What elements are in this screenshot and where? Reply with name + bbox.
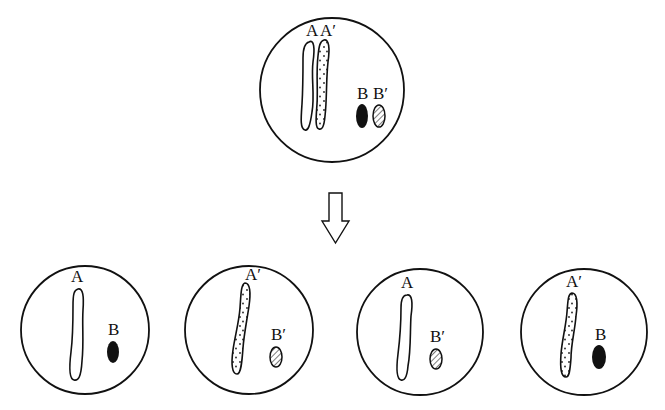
label-short: B: [595, 325, 606, 344]
chromosome-long: [232, 283, 250, 374]
cell-membrane: [521, 269, 647, 395]
label-short: B′: [430, 327, 445, 346]
label-short: B: [108, 320, 119, 339]
daughter-cell-2: A′ B′: [185, 265, 313, 394]
chromosome-b: [356, 104, 368, 128]
down-arrow-icon: [322, 193, 349, 243]
label-b-prime: B′: [373, 84, 388, 103]
label-long: A: [71, 267, 84, 286]
meiosis-diagram: A A′ B B′ A B A′ B′ A B′ A′: [0, 0, 665, 410]
chromosome-b-prime: [373, 105, 385, 127]
chromosome-short: [107, 341, 119, 363]
cell-membrane: [357, 269, 483, 395]
chromosome-short: [270, 347, 282, 367]
label-long: A′: [245, 265, 261, 284]
daughter-cell-4: A′ B: [521, 269, 647, 395]
chromosome-long: [397, 295, 412, 380]
cell-membrane: [21, 266, 149, 394]
label-b: B: [357, 84, 368, 103]
chromosome-long: [70, 289, 84, 380]
daughter-cell-3: A B′: [357, 269, 483, 395]
parent-cell: A A′ B B′: [260, 18, 404, 162]
label-long: A′: [566, 272, 582, 291]
daughter-cell-1: A B: [21, 266, 149, 394]
chromosome-a-prime: [316, 40, 329, 129]
label-a-prime: A′: [320, 21, 336, 40]
chromosome-short: [430, 349, 442, 369]
label-long: A: [401, 273, 414, 292]
chromosome-a: [301, 41, 314, 130]
label-a: A: [306, 21, 319, 40]
chromosome-short: [592, 345, 606, 369]
chromosome-long: [561, 293, 577, 377]
label-short: B′: [271, 325, 286, 344]
